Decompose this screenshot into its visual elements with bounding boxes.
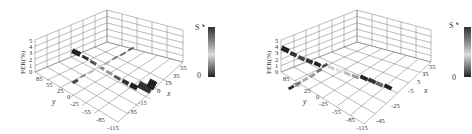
chart-3d-right: 5 4 3 2 1 0 PER(%) 85 55 25 0 -25 -55 -8… — [236, 0, 472, 134]
svg-text:-55: -55 — [332, 108, 341, 115]
svg-text:-45: -45 — [376, 117, 385, 124]
svg-text:-85: -85 — [96, 116, 105, 123]
back-wall-grid — [107, 10, 183, 62]
z-axis-ticks: 5 4 3 2 1 0 — [275, 37, 279, 75]
colorbar: S 0 — [195, 23, 215, 80]
y-axis-ticks: 85 55 25 0 -25 -55 -85 -115 — [36, 75, 119, 131]
svg-text:-115: -115 — [107, 124, 119, 131]
svg-text:-5: -5 — [408, 87, 413, 94]
svg-text:35: 35 — [173, 72, 180, 79]
svg-text:-35: -35 — [128, 108, 137, 115]
floor-grid — [281, 42, 431, 124]
chart-panel-left: 5 4 3 2 1 0 PER(%) 85 55 25 0 -25 -55 -8… — [0, 0, 236, 134]
svg-text:0: 0 — [275, 68, 278, 75]
svg-text:85: 85 — [36, 75, 43, 82]
svg-text:85: 85 — [283, 75, 290, 82]
svg-text:-55: -55 — [82, 108, 91, 115]
svg-text:-25: -25 — [391, 102, 400, 109]
svg-text:0: 0 — [67, 93, 70, 100]
series-y-line — [71, 48, 157, 93]
svg-text:-85: -85 — [346, 116, 355, 123]
chart-3d-left: 5 4 3 2 1 0 PER(%) 85 55 25 0 -25 -55 -8… — [0, 0, 236, 134]
svg-text:35: 35 — [422, 70, 429, 77]
x-axis-label: x — [423, 86, 428, 95]
svg-text:25: 25 — [57, 87, 64, 94]
svg-text:55: 55 — [180, 64, 187, 71]
z-axis-label: PER(%) — [19, 50, 27, 74]
series-y-line — [281, 46, 329, 91]
svg-text:3: 3 — [29, 49, 32, 56]
svg-text:0: 0 — [157, 87, 160, 94]
svg-text:55: 55 — [293, 81, 300, 88]
floor-grid — [35, 42, 183, 122]
back-wall-grid — [357, 10, 431, 62]
svg-text:55: 55 — [429, 63, 436, 70]
z-axis-ticks: 5 4 3 2 1 0 — [29, 37, 33, 75]
svg-text:0: 0 — [316, 93, 319, 100]
x-axis-label: x — [166, 89, 171, 98]
series-x-line — [327, 65, 392, 91]
svg-text:25: 25 — [304, 87, 311, 94]
svg-text:0: 0 — [197, 71, 201, 80]
svg-text:5: 5 — [417, 78, 420, 85]
svg-text:0: 0 — [29, 68, 32, 75]
x-axis-ticks: 55 35 15 0 -15 -35 — [128, 64, 187, 115]
svg-text:15: 15 — [165, 79, 172, 86]
svg-text:-115: -115 — [356, 124, 368, 131]
z-axis-label: PER(%) — [265, 50, 273, 74]
svg-text:S: S — [195, 23, 199, 32]
svg-text:0: 0 — [452, 73, 456, 82]
left-wall-grid — [281, 10, 357, 72]
chart-panel-right: 5 4 3 2 1 0 PER(%) 85 55 25 0 -25 -55 -8… — [236, 0, 472, 134]
svg-text:-15: -15 — [138, 99, 147, 106]
y-axis-label: y — [51, 97, 56, 106]
y-axis-ticks: 85 55 25 0 -25 -55 -85 -115 — [283, 75, 368, 131]
svg-text:-25: -25 — [319, 100, 328, 107]
y-axis-label: y — [302, 97, 307, 106]
svg-text:-25: -25 — [70, 100, 79, 107]
svg-text:S: S — [449, 21, 453, 30]
svg-text:55: 55 — [46, 81, 53, 88]
colorbar: S 0 — [449, 21, 471, 82]
svg-text:3: 3 — [275, 49, 278, 56]
